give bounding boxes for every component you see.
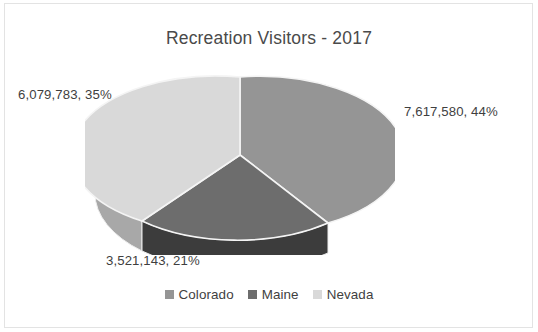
legend-label-maine: Maine xyxy=(262,287,299,302)
data-label-maine: 3,521,143, 21% xyxy=(106,253,200,268)
pie-chart-card: Recreation Visitors - 2017 7,617,580, 44… xyxy=(0,0,538,332)
legend-label-nevada: Nevada xyxy=(327,287,374,302)
pie-svg xyxy=(85,55,395,255)
chart-title: Recreation Visitors - 2017 xyxy=(0,28,538,49)
legend-item-colorado[interactable]: Colorado xyxy=(165,287,234,302)
legend-swatch-maine-icon xyxy=(248,290,257,299)
legend-item-maine[interactable]: Maine xyxy=(248,287,299,302)
legend-item-nevada[interactable]: Nevada xyxy=(313,287,374,302)
legend-label-colorado: Colorado xyxy=(179,287,234,302)
legend-swatch-colorado-icon xyxy=(165,290,174,299)
pie-plot-area xyxy=(85,55,395,255)
chart-legend: Colorado Maine Nevada xyxy=(0,287,538,302)
legend-swatch-nevada-icon xyxy=(313,290,322,299)
data-label-nevada: 6,079,783, 35% xyxy=(18,87,112,102)
data-label-colorado: 7,617,580, 44% xyxy=(404,104,498,119)
